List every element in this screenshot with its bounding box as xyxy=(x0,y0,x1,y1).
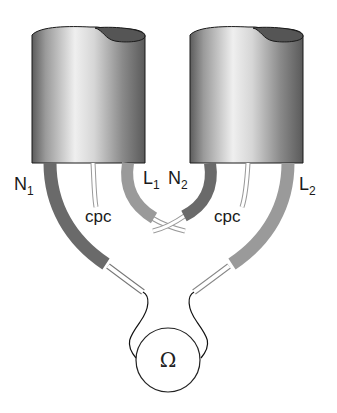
crossed-bare-ends xyxy=(152,215,186,231)
right-cable-body xyxy=(190,27,303,163)
cpc-left-conductor xyxy=(93,163,96,207)
label-l2: L2 xyxy=(299,174,316,198)
ring-continuity-diagram: Ω N1 L1 N2 L2 cpc cpc xyxy=(0,0,337,413)
label-n2: N2 xyxy=(168,168,188,192)
cpc-right-conductor xyxy=(242,163,248,207)
right-cable xyxy=(190,27,303,163)
ohmmeter: Ω xyxy=(136,328,200,392)
label-cpc-left: cpc xyxy=(85,207,112,226)
left-cable xyxy=(32,27,145,163)
label-cpc-right: cpc xyxy=(214,207,241,226)
ohm-symbol: Ω xyxy=(160,348,177,372)
left-cable-body xyxy=(32,27,145,163)
label-n1: N1 xyxy=(14,174,34,198)
n2-conductor xyxy=(184,163,211,216)
label-l1: L1 xyxy=(143,168,160,192)
